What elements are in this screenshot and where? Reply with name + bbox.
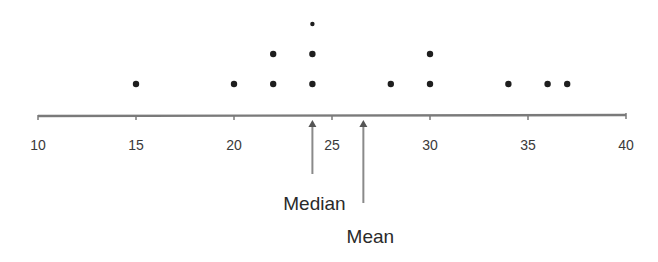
data-dot bbox=[309, 51, 315, 57]
data-dot bbox=[388, 81, 394, 87]
x-tick-label: 10 bbox=[30, 137, 46, 153]
data-dot bbox=[309, 81, 315, 87]
data-dot bbox=[270, 81, 276, 87]
dot-plot-chart: 10152025303540 MedianMean bbox=[0, 0, 658, 262]
x-tick-label: 35 bbox=[520, 137, 536, 153]
data-dot bbox=[564, 81, 570, 87]
mean-arrow-head-icon bbox=[359, 120, 367, 127]
data-dot bbox=[231, 81, 237, 87]
data-dot bbox=[544, 81, 550, 87]
median-label: Median bbox=[283, 193, 345, 214]
data-dots bbox=[133, 22, 571, 87]
x-tick-label: 20 bbox=[226, 137, 242, 153]
data-dot bbox=[427, 81, 433, 87]
median-arrow-head-icon bbox=[308, 120, 316, 127]
x-tick-label: 15 bbox=[128, 137, 144, 153]
data-dot bbox=[133, 81, 139, 87]
x-axis-line bbox=[38, 115, 626, 116]
data-dot bbox=[505, 81, 511, 87]
x-axis-ticks: 10152025303540 bbox=[30, 116, 634, 153]
data-dot bbox=[427, 51, 433, 57]
x-tick-label: 40 bbox=[618, 137, 634, 153]
x-tick-label: 25 bbox=[324, 137, 340, 153]
mean-label: Mean bbox=[347, 226, 395, 247]
data-dot bbox=[310, 22, 314, 26]
data-dot bbox=[270, 51, 276, 57]
x-tick-label: 30 bbox=[422, 137, 438, 153]
